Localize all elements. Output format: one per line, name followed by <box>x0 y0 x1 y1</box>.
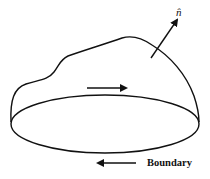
boundary-ellipse <box>11 95 199 153</box>
surface-diagram: n̂ Boundary <box>0 0 210 179</box>
normal-vector-arrow <box>151 20 177 58</box>
boundary-label: Boundary <box>147 157 193 168</box>
normal-label: n̂ <box>176 6 182 18</box>
surface-outline <box>11 37 199 122</box>
